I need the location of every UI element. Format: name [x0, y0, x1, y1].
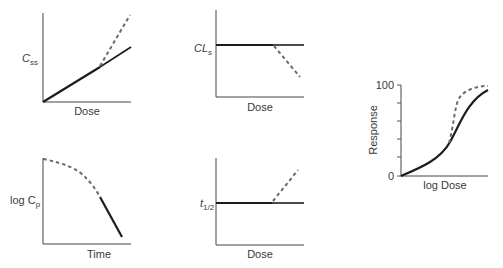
x-axis-label: log Dose	[423, 179, 466, 191]
linear-elimination-line	[100, 197, 122, 237]
chart-css-vs-dose: Css Dose	[22, 13, 131, 117]
x-axis-label: Time	[87, 248, 111, 260]
y-axis-label: t1/2	[200, 197, 215, 212]
nonlinear-dashed-line	[100, 15, 130, 66]
y-axis-label: Response	[367, 105, 379, 155]
linear-line-ext	[100, 47, 131, 67]
chart-cls-vs-dose: CLs Dose	[194, 10, 304, 113]
linear-response-curve	[401, 90, 488, 176]
y-axis-label: CLs	[194, 42, 212, 57]
linear-line	[43, 67, 100, 102]
y-axis-label: Css	[22, 52, 38, 67]
x-axis-label: Dose	[247, 248, 273, 260]
x-axis-label: Dose	[74, 105, 100, 117]
chart-response-vs-logdose: 100 0 Response log Dose	[367, 79, 488, 191]
chart-logcp-vs-time: log Cp Time	[10, 158, 131, 260]
pharmacokinetics-figure: Css Dose CLs Dose log Cp Time t1/2 Dose	[0, 0, 503, 268]
nonlinear-dashed-curve	[43, 159, 100, 197]
y-axis-label: log Cp	[10, 194, 41, 209]
chart-thalf-vs-dose: t1/2 Dose	[200, 158, 304, 260]
x-axis-label: Dose	[247, 101, 273, 113]
y-tick-label-0: 0	[388, 170, 394, 182]
nonlinear-dashed-line	[274, 46, 300, 77]
nonlinear-dashed-line	[273, 170, 298, 201]
y-tick-label-100: 100	[376, 79, 394, 91]
